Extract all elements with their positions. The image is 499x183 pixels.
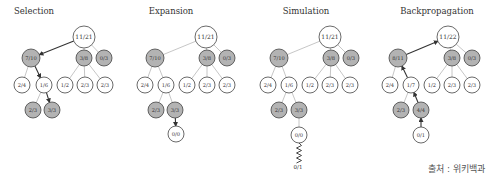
tree-node: 0/0: [168, 126, 184, 142]
tree-node: 2/3: [322, 77, 338, 93]
tree-node: 2/3: [25, 102, 41, 118]
tree-edge: [169, 93, 173, 103]
node-label: 7/10: [149, 55, 161, 61]
tree-edge: [212, 64, 222, 78]
tree-edge: [158, 66, 163, 77]
tree-node: 2/3: [77, 77, 93, 93]
tree-node: 2/4: [382, 77, 398, 93]
node-label: 2/3: [397, 107, 405, 113]
tree-canvas: 11/217/103/80/32/41/61/22/32/32/33/311/2…: [0, 0, 499, 183]
node-label: 0/3: [468, 55, 476, 61]
tree-edge: [404, 92, 408, 102]
node-label: 2/4: [264, 82, 273, 88]
tree-node: 2/3: [444, 77, 460, 93]
source-caption: 출처 : 위키백과: [428, 162, 485, 175]
tree-node: 0/3: [96, 50, 112, 66]
node-label: 1/6: [162, 82, 170, 88]
node-label: 1/6: [285, 82, 293, 88]
tree-edge: [92, 45, 99, 52]
node-label: 3/3: [48, 107, 56, 113]
tree-edge: [25, 67, 29, 78]
node-label: 0/1: [417, 132, 425, 138]
node-label: 3/3: [295, 107, 303, 113]
tree-node: 7/10: [146, 49, 164, 67]
tree-edge: [89, 64, 100, 78]
tree-node: 0/3: [464, 50, 480, 66]
node-label: 1/2: [183, 82, 191, 88]
tree-edge: [457, 64, 467, 78]
node-label: 4/4: [417, 107, 426, 113]
node-label: 0/3: [223, 55, 231, 61]
node-label: 11/21: [197, 33, 214, 40]
tree-edge: [36, 92, 41, 102]
tree-edge: [214, 45, 222, 53]
tree-node: 1/7: [403, 77, 419, 93]
node-label: 0/0: [172, 131, 180, 137]
tree-edge: [315, 64, 326, 78]
tree-edge-arrow: [35, 66, 41, 78]
tree-node: 1/2: [424, 77, 440, 93]
node-label: 2/3: [101, 82, 109, 88]
tree-edge: [192, 64, 202, 78]
tree-edge: [292, 92, 296, 102]
node-label: 8/11: [392, 55, 404, 61]
rollout-squiggle: [297, 143, 302, 163]
tree-node: 0/1: [413, 127, 429, 143]
tree-node: 3/8: [199, 50, 215, 66]
tree-edge: [282, 92, 286, 102]
tree-node: 4/4: [413, 102, 429, 118]
mcts-diagram: Selection Expansion Simulation Backpropa…: [0, 0, 499, 183]
node-label: 2/4: [386, 82, 395, 88]
tree-node: 7/10: [22, 49, 40, 67]
tree-edge: [287, 41, 320, 54]
tree-node: 2/3: [97, 77, 113, 93]
tree-node: 2/3: [271, 102, 287, 118]
tree-node: 2/4: [260, 77, 276, 93]
tree-edge: [148, 66, 152, 77]
tree-node: 2/3: [464, 77, 480, 93]
tree-node: 2/4: [14, 77, 30, 93]
tree-edge-arrow: [406, 41, 438, 54]
tree-edge-arrow: [39, 41, 73, 55]
tree-node: 2/4: [137, 77, 153, 93]
node-label: 2/4: [141, 82, 150, 88]
tree-node: 7/10: [270, 49, 288, 67]
tree-node: 1/2: [179, 77, 195, 93]
node-label: 2/3: [326, 82, 334, 88]
node-label: 11/22: [439, 33, 456, 40]
rollout-result-label: 0/1: [294, 164, 303, 170]
node-label: 2/3: [448, 82, 456, 88]
tree-backpropagation: 11/228/113/80/32/41/71/22/32/32/34/40/1: [382, 26, 480, 143]
node-label: 11/21: [75, 33, 92, 40]
node-label: 11/21: [321, 33, 338, 40]
tree-node: 11/21: [195, 26, 217, 48]
tree-node: 3/3: [167, 102, 183, 118]
node-label: 1/6: [40, 82, 48, 88]
node-label: 2/4: [18, 82, 27, 88]
tree-node: 1/2: [57, 77, 73, 93]
node-label: 0/3: [100, 55, 108, 61]
node-label: 2/3: [152, 107, 160, 113]
node-label: 2/3: [81, 82, 89, 88]
node-label: 3/8: [80, 55, 88, 61]
tree-node: 1/6: [281, 77, 297, 93]
tree-node: 1/6: [36, 77, 52, 93]
tree-edge-arrow: [46, 93, 49, 103]
node-label: 3/8: [203, 55, 211, 61]
tree-node: 0/3: [343, 50, 359, 66]
node-label: 0/0: [295, 132, 303, 138]
tree-edge-arrow: [402, 66, 408, 78]
tree-edge: [282, 66, 286, 77]
node-label: 3/8: [327, 55, 335, 61]
tree-edge-arrow: [414, 92, 418, 102]
node-label: 7/10: [25, 55, 37, 61]
tree-edge: [159, 92, 163, 102]
tree-node: 2/3: [219, 77, 235, 93]
tree-node: 8/11: [389, 49, 407, 67]
node-label: 1/2: [428, 82, 436, 88]
tree-selection: 11/217/103/80/32/41/61/22/32/32/33/3: [14, 26, 113, 118]
tree-node: 1/6: [158, 77, 174, 93]
node-label: 3/8: [448, 55, 456, 61]
node-label: 1/7: [407, 82, 415, 88]
node-label: 1/2: [61, 82, 69, 88]
